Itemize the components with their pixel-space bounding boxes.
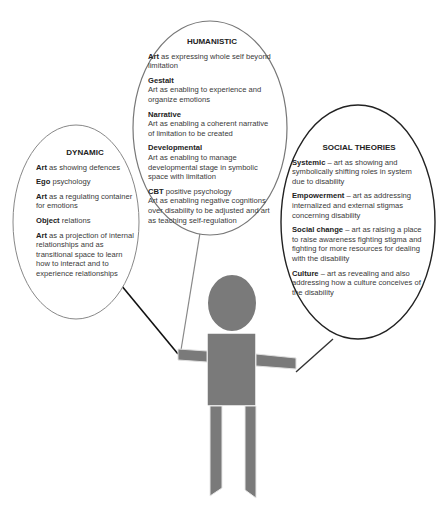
item-head: Social change [292, 225, 343, 234]
item-head: Art [36, 192, 47, 201]
dynamic-item: Art as a regulating container for emotio… [36, 192, 134, 211]
humanistic-item: Art as expressing whole self beyond limi… [148, 52, 276, 71]
item-text: Art as enabling to experience and organi… [148, 85, 261, 104]
item-text: relations [60, 216, 91, 225]
humanistic-title: HUMANISTIC [148, 37, 276, 47]
social-item: Culture – art as revealing and also addr… [292, 269, 426, 298]
humanistic-item: CBT positive psychologyArt as enabling n… [148, 187, 276, 225]
social-string [296, 339, 333, 372]
item-head: CBT [148, 187, 164, 196]
item-text: Art as enabling to manage developmental … [148, 153, 258, 181]
dynamic-item: Art as a projection of internal relation… [36, 231, 134, 279]
item-head: Object [36, 216, 60, 225]
figure-head [207, 274, 257, 332]
social-theories-text: SOCIAL THEORIES Systemic – art as showin… [292, 143, 426, 302]
figure-left-leg [210, 406, 222, 496]
item-head: Ego [36, 177, 50, 186]
item-head: Art [36, 163, 47, 172]
dynamic-item: Object relations [36, 216, 134, 226]
dynamic-title: DYNAMIC [36, 148, 134, 158]
item-head: Art [148, 52, 159, 61]
social-item: Systemic – art as showing and symbolical… [292, 158, 426, 187]
humanistic-string [181, 233, 200, 350]
dynamic-item: Ego psychology [36, 177, 134, 187]
item-text: as showing defences [47, 163, 120, 172]
item-head: Gestalt [148, 76, 276, 86]
humanistic-item: NarrativeArt as enabling a coherent narr… [148, 110, 276, 139]
figure-body [207, 333, 256, 406]
social-item: Social change – art as raising a place t… [292, 225, 426, 263]
social-theories-title: SOCIAL THEORIES [292, 143, 426, 153]
item-head: Narrative [148, 110, 276, 120]
item-text: as expressing whole self beyond limitati… [148, 52, 271, 71]
dynamic-string [121, 285, 178, 354]
item-head: Art [36, 231, 47, 240]
item-head-rest: positive psychology [164, 187, 232, 196]
item-head: Systemic [292, 158, 325, 167]
dynamic-item: Art as showing defences [36, 163, 134, 173]
item-head: Developmental [148, 143, 276, 153]
humanistic-item: DevelopmentalArt as enabling to manage d… [148, 143, 276, 181]
humanistic-item: GestaltArt as enabling to experience and… [148, 76, 276, 105]
item-text: Art as enabling a coherent narrative of … [148, 119, 268, 138]
figure-right-arm [256, 354, 296, 369]
humanistic-text: HUMANISTIC Art as expressing whole self … [148, 37, 276, 230]
item-text: as a projection of internal relationship… [36, 231, 134, 278]
item-text: as a regulating container for emotions [36, 192, 132, 211]
stick-figure [178, 274, 296, 498]
figure-left-arm [178, 349, 207, 362]
social-item: Empowerment – art as addressing internal… [292, 191, 426, 220]
dynamic-text: DYNAMIC Art as showing defences Ego psyc… [36, 148, 134, 284]
item-head: Empowerment [292, 191, 344, 200]
item-text: Art as enabling negative cognitions over… [148, 196, 276, 225]
item-text: psychology [50, 177, 90, 186]
item-head: Culture [292, 269, 319, 278]
figure-right-leg [245, 406, 256, 498]
